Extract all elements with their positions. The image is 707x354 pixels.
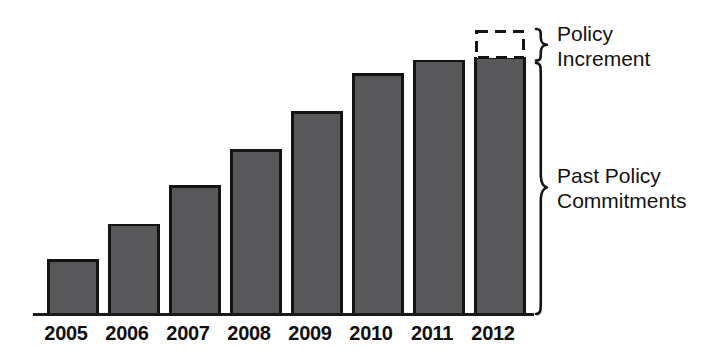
policy-increment-label-line1: Policy: [557, 21, 650, 46]
x-tick-label-2005: 2005: [36, 322, 96, 344]
past-policy-commitments-brace: [536, 63, 547, 314]
bar-2009: [293, 112, 342, 314]
past-policy-commitments-label-line1: Past Policy: [557, 163, 687, 188]
bars-group: [49, 58, 525, 314]
x-tick-label-2008: 2008: [219, 322, 279, 344]
past-policy-commitments-label-line2: Commitments: [557, 188, 687, 213]
bar-2007: [171, 187, 220, 314]
bar-2005: [49, 261, 98, 315]
x-tick-label-2006: 2006: [97, 322, 157, 344]
bar-chart-figure: 2005 2006 2007 2008 2009 2010 2011 2012 …: [0, 0, 707, 354]
x-tick-label-2011: 2011: [402, 322, 462, 344]
x-tick-label-2010: 2010: [341, 322, 401, 344]
policy-increment-brace: [536, 29, 547, 61]
past-policy-commitments-label: Past Policy Commitments: [557, 163, 687, 213]
bar-2006: [110, 225, 159, 314]
policy-increment-dashed-box: [477, 32, 524, 58]
bar-2010: [354, 74, 403, 314]
x-tick-label-2012: 2012: [463, 322, 523, 344]
bar-2011: [415, 61, 464, 314]
bar-2008: [232, 150, 281, 314]
bar-2012: [476, 58, 525, 314]
x-tick-label-2007: 2007: [158, 322, 218, 344]
x-tick-label-2009: 2009: [280, 322, 340, 344]
policy-increment-label: Policy Increment: [557, 21, 650, 71]
policy-increment-label-line2: Increment: [557, 46, 650, 71]
